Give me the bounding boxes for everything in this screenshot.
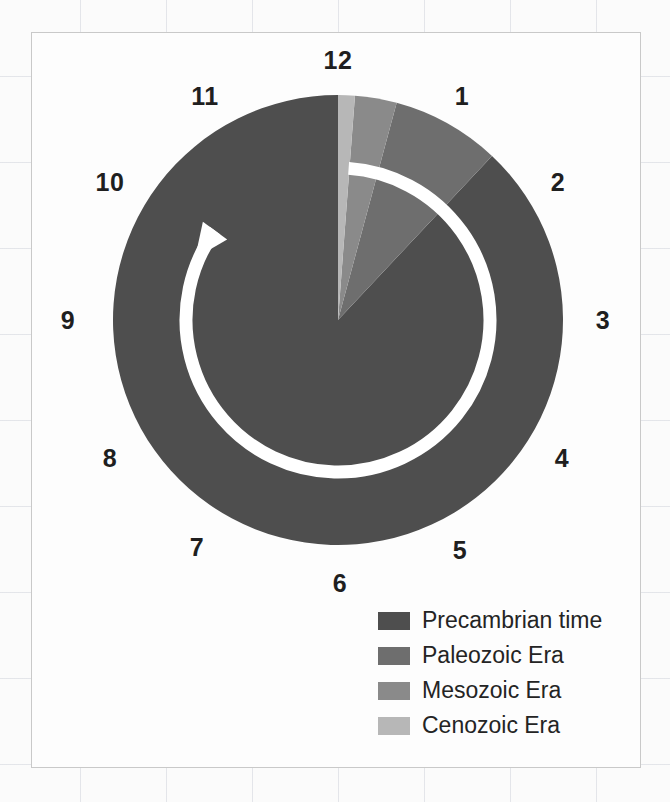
legend-item: Mesozoic Era (378, 673, 628, 708)
hour-label-8: 8 (103, 444, 117, 473)
hour-label-1: 1 (455, 82, 469, 111)
hour-label-12: 12 (324, 46, 353, 75)
legend-item: Cenozoic Era (378, 708, 628, 743)
hour-label-11: 11 (191, 82, 218, 111)
legend-swatch-paleozoic (378, 647, 410, 665)
hour-label-3: 3 (596, 306, 610, 335)
hour-label-2: 2 (551, 168, 565, 197)
legend-item: Paleozoic Era (378, 638, 628, 673)
legend-swatch-cenozoic (378, 717, 410, 735)
hour-label-9: 9 (61, 306, 75, 335)
legend-swatch-mesozoic (378, 682, 410, 700)
legend-label-paleozoic: Paleozoic Era (422, 642, 564, 669)
legend-label-mesozoic: Mesozoic Era (422, 677, 561, 704)
legend-item: Precambrian time (378, 603, 628, 638)
legend-swatch-precambrian (378, 612, 410, 630)
hour-label-7: 7 (190, 533, 204, 562)
legend: Precambrian time Paleozoic Era Mesozoic … (378, 603, 628, 743)
hour-label-6: 6 (333, 569, 347, 598)
hour-label-4: 4 (555, 444, 569, 473)
legend-label-cenozoic: Cenozoic Era (422, 712, 560, 739)
legend-label-precambrian: Precambrian time (422, 607, 602, 634)
hour-label-5: 5 (453, 536, 467, 565)
hour-label-10: 10 (96, 168, 125, 197)
